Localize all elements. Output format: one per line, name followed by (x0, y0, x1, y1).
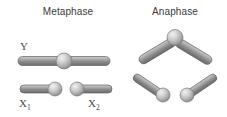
chromosome-label-x1-subscript: 1 (27, 103, 31, 112)
chromosome-x2-centromere (70, 82, 84, 96)
chromosome-y-anaphase (137, 30, 213, 66)
chromosome-label-x2-subscript: 2 (96, 103, 100, 112)
metaphase-group (18, 53, 112, 96)
chromosome-x2-metaphase (70, 82, 112, 96)
anaphase-group (132, 30, 218, 103)
chromosome-label-x2-base: X (88, 97, 96, 109)
chromosome-label-x1: X1 (19, 97, 31, 112)
chromosome-x1-metaphase (20, 82, 62, 96)
chromosome-x2-centromere-anaphase (180, 88, 194, 102)
chromosome-artwork (0, 0, 227, 117)
chromosome-label-y: Y (20, 40, 28, 52)
chromosome-x2-anaphase (180, 73, 218, 102)
chromosome-x1-centromere (48, 82, 62, 96)
chromosome-label-x1-base: X (19, 97, 27, 109)
chromosome-x1-centromere-anaphase (156, 88, 170, 102)
chromosome-y-centromere (56, 53, 72, 69)
chromosome-label-x2: X2 (88, 97, 100, 112)
chromosome-diagram: Metaphase Anaphase (0, 0, 227, 117)
chromosome-y-metaphase (18, 53, 110, 69)
chromosome-x1-anaphase (132, 73, 170, 102)
chromosome-y-centromere-anaphase (167, 30, 183, 46)
